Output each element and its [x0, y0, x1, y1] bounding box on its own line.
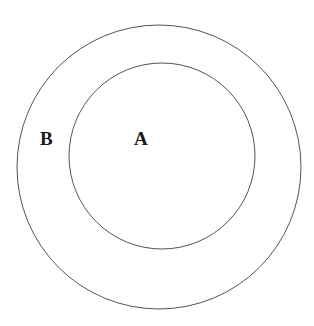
outer-circle-b — [17, 25, 301, 309]
label-b: B — [40, 128, 53, 149]
inner-circle-a — [69, 63, 255, 249]
label-a: A — [134, 128, 148, 149]
nested-circles-diagram: B A — [0, 0, 314, 326]
